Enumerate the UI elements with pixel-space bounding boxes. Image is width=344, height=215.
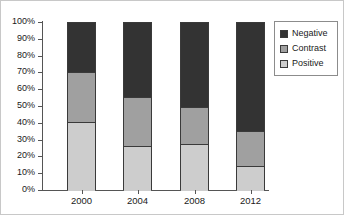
x-axis-tick (251, 190, 252, 194)
bar-2000[interactable] (67, 22, 96, 190)
legend-item-positive[interactable]: Positive (280, 56, 333, 71)
bar-segment-2004-negative[interactable] (124, 23, 151, 97)
x-axis-tick (82, 190, 83, 194)
legend-swatch-icon-positive (280, 60, 288, 68)
y-axis-tick (38, 72, 42, 73)
x-axis-label-2012: 2012 (221, 195, 281, 207)
x-axis-tick (138, 190, 139, 194)
legend-label: Negative (292, 28, 328, 39)
bar-segment-2012-positive[interactable] (237, 166, 264, 191)
y-axis-label: 100% (1, 16, 35, 27)
y-axis-tick (38, 56, 42, 57)
bar-segment-2004-positive[interactable] (124, 146, 151, 191)
bar-2004[interactable] (123, 22, 152, 190)
y-axis-label: 40% (1, 117, 35, 128)
y-axis-tick (38, 89, 42, 90)
x-axis-label-2004: 2004 (108, 195, 168, 207)
legend-swatch-icon-negative (280, 30, 288, 38)
x-axis-label-2008: 2008 (165, 195, 225, 207)
bar-segment-2000-contrast[interactable] (68, 72, 95, 122)
bar-segment-2008-contrast[interactable] (181, 107, 208, 144)
y-axis-label: 70% (1, 66, 35, 77)
bar-segment-2012-contrast[interactable] (237, 131, 264, 166)
plot-area (43, 22, 269, 190)
y-axis-label: 0% (1, 184, 35, 195)
bar-segment-2004-contrast[interactable] (124, 97, 151, 146)
y-axis-tick (38, 140, 42, 141)
y-axis-tick (38, 173, 42, 174)
bar-segment-2008-negative[interactable] (181, 23, 208, 107)
bar-segment-2008-positive[interactable] (181, 144, 208, 191)
y-axis-tick (38, 39, 42, 40)
y-axis-label: 60% (1, 83, 35, 94)
y-axis-tick (38, 106, 42, 107)
y-axis-label: 10% (1, 167, 35, 178)
stacked-bar-chart: 0%10%20%30%40%50%60%70%80%90%100% 200020… (0, 0, 344, 215)
legend-item-negative[interactable]: Negative (280, 26, 333, 41)
bar-segment-2012-negative[interactable] (237, 23, 264, 131)
y-axis-tick (38, 123, 42, 124)
y-axis-label: 90% (1, 33, 35, 44)
y-axis-tick (38, 190, 42, 191)
x-axis-label-2000: 2000 (52, 195, 112, 207)
y-axis-tick (38, 22, 42, 23)
y-axis-label: 80% (1, 50, 35, 61)
y-axis-tick (38, 156, 42, 157)
y-axis-label: 20% (1, 150, 35, 161)
y-axis-label: 50% (1, 100, 35, 111)
bar-segment-2000-positive[interactable] (68, 122, 95, 191)
y-axis-label: 30% (1, 134, 35, 145)
bar-segment-2000-negative[interactable] (68, 23, 95, 72)
legend-swatch-icon-contrast (280, 45, 288, 53)
legend-label: Positive (292, 58, 324, 69)
legend-label: Contrast (292, 43, 326, 54)
bar-2012[interactable] (236, 22, 265, 190)
chart-legend: NegativeContrastPositive (274, 21, 338, 76)
bar-2008[interactable] (180, 22, 209, 190)
x-axis-tick (195, 190, 196, 194)
legend-item-contrast[interactable]: Contrast (280, 41, 333, 56)
